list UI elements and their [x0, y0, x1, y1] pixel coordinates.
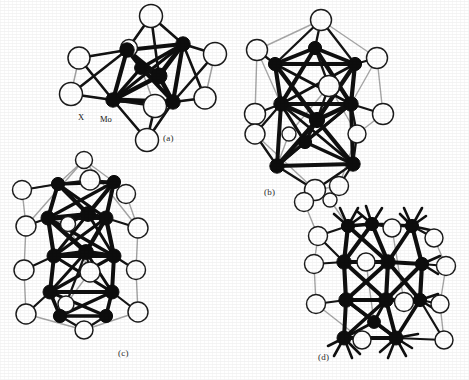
metal-atom	[135, 62, 148, 75]
metal-atom	[81, 207, 96, 222]
metal-atom	[151, 68, 167, 84]
panel-b-label: (b)	[264, 187, 275, 197]
panel-c-cluster-diagram	[14, 158, 179, 358]
ligand-atom	[319, 76, 340, 97]
ligand-atom	[245, 104, 266, 125]
panel-a-svg	[55, 2, 235, 152]
ligand-atom	[307, 295, 326, 314]
ligand-atom	[295, 193, 314, 212]
metal-atom	[308, 41, 321, 54]
metal-atom	[298, 135, 311, 148]
ligand-atom	[128, 218, 148, 238]
ligand-atom	[357, 253, 375, 271]
metal-atom	[341, 219, 354, 232]
metal-atom	[381, 255, 395, 269]
ligand-atom	[80, 170, 100, 190]
ligand-atom	[127, 261, 146, 280]
metal-atom	[368, 316, 381, 329]
ligand-atom	[68, 47, 90, 69]
metal-atom	[389, 331, 403, 345]
ligand-atom	[431, 295, 449, 313]
ligand-atom	[136, 129, 159, 152]
panel-b-svg	[243, 8, 433, 193]
metal-atom	[379, 293, 393, 307]
ligand-atom	[435, 331, 453, 349]
metal-atom	[309, 112, 324, 127]
metal-atom	[79, 245, 94, 260]
ligand-atom	[60, 83, 83, 106]
ligand-atom	[348, 125, 366, 143]
panel-a-label: (a)	[163, 133, 174, 143]
metal-atom	[413, 293, 426, 306]
metal-atom	[348, 57, 361, 70]
metal-atom	[415, 257, 428, 270]
ligand-atom	[311, 10, 332, 31]
ligand-atom	[247, 40, 268, 61]
metal-atom	[337, 331, 351, 345]
metal-atom	[105, 285, 119, 299]
ligand-atom	[305, 255, 324, 274]
ligand-atom	[353, 331, 371, 349]
ligand-atom	[373, 104, 394, 125]
ligand-atom	[194, 87, 216, 109]
ligand-atom	[13, 181, 32, 200]
metal-atom	[166, 95, 180, 109]
metal-atom	[43, 285, 57, 299]
ligand-atom	[140, 5, 163, 28]
metal-atom	[365, 217, 378, 230]
panel-d-label: (d)	[318, 352, 329, 362]
figure-canvas: X Mo (a) (b) (c) (d)	[0, 0, 469, 380]
metal-atom	[41, 211, 55, 225]
metal-atom	[339, 293, 353, 307]
metal-atom	[346, 157, 360, 171]
ligand-atom	[245, 124, 265, 144]
ligand-atom	[76, 152, 93, 169]
ligand-atom	[323, 193, 337, 207]
ligand-atom	[16, 216, 36, 236]
metal-atom	[274, 97, 288, 111]
metal-atom	[120, 43, 134, 57]
ligand-atom	[282, 127, 296, 141]
metal-atom	[99, 211, 113, 225]
ligand-atom	[367, 48, 388, 69]
metal-atom	[106, 93, 120, 107]
ligand-atom	[80, 262, 100, 282]
ligand-atom	[16, 304, 36, 324]
metal-atom	[176, 37, 190, 51]
metal-atom	[344, 97, 358, 111]
metal-atom	[337, 255, 351, 269]
metal-atom	[107, 175, 120, 188]
ligand-atom	[204, 43, 227, 66]
panel-a-ligand-bonds	[71, 16, 215, 140]
ligand-atom	[128, 302, 148, 322]
panel-d-metal-bonds	[344, 224, 422, 338]
metal-atom	[47, 249, 61, 263]
metal-atom	[51, 177, 64, 190]
ligand-atom	[437, 257, 456, 276]
ligand-atom	[144, 95, 167, 118]
panel-c-label: (c)	[118, 348, 129, 358]
ligand-atom	[61, 217, 76, 232]
metal-atom	[99, 309, 112, 322]
mo-atom-label: Mo	[100, 114, 112, 124]
panel-b-cluster-diagram	[243, 8, 433, 193]
ligand-atom	[117, 185, 136, 204]
ligand-atom	[75, 321, 93, 339]
ligand-atom	[395, 293, 414, 312]
metal-atom	[107, 249, 121, 263]
x-atom-label: X	[78, 112, 84, 122]
ligand-atom	[309, 227, 328, 246]
ligand-atom	[383, 219, 401, 237]
metal-atom	[268, 57, 281, 70]
ligand-atom	[425, 229, 443, 247]
metal-atom	[53, 309, 66, 322]
metal-atom	[405, 219, 418, 232]
panel-c-svg	[14, 158, 179, 358]
metal-atom	[270, 159, 284, 173]
ligand-atom	[14, 260, 34, 280]
panel-a-cluster-diagram	[55, 2, 235, 152]
